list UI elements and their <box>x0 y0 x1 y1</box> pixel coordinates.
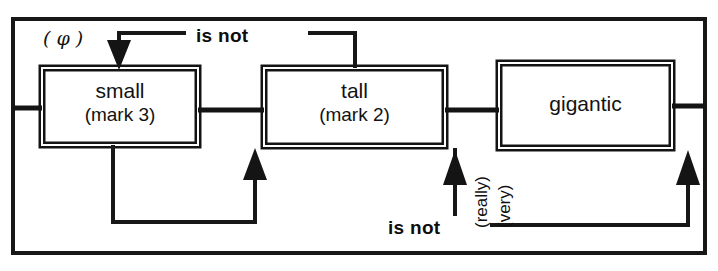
arrowhead-up-intensifier <box>443 150 467 185</box>
arc-path-small-to-tall <box>113 145 255 222</box>
node-box-tall <box>264 68 445 146</box>
arrowhead-up-right-return <box>676 150 700 185</box>
intensifier-label-really: (really) <box>472 176 492 228</box>
empty-symbol-label: ( φ ) <box>43 27 83 50</box>
node-box-small <box>42 68 198 145</box>
arc-label-top-is-not: is not <box>196 25 248 47</box>
node-box-gigantic <box>499 63 672 148</box>
arc-label-bottom-is-not: is not <box>388 217 440 239</box>
diagram-canvas: small (mark 3) tall (mark 2) gigantic is… <box>0 0 718 271</box>
phi-glyph: ( φ ) <box>43 27 83 49</box>
arrowhead-up-into-tall <box>243 148 267 180</box>
diagram-vector-layer <box>0 0 718 271</box>
intensifier-label-very: (very) <box>495 185 515 228</box>
